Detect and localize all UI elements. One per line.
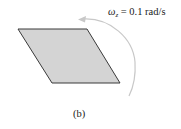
parallelogram-plate	[18, 29, 120, 83]
diagram-graphics	[0, 0, 181, 129]
angular-velocity-value: 0.1 rad/s	[129, 6, 165, 17]
diagram-canvas: ωz = 0.1 rad/s (b)	[0, 0, 181, 129]
equals-sign: =	[118, 6, 129, 17]
rotation-arrowhead-icon	[78, 16, 86, 23]
angular-velocity-label: ωz = 0.1 rad/s	[108, 6, 166, 19]
figure-label: (b)	[73, 108, 85, 119]
